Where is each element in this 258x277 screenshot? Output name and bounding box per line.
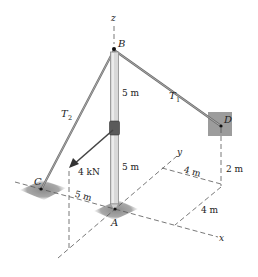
x-axis-label: x <box>219 233 224 243</box>
point-c-marker <box>39 187 42 190</box>
tension-t1-label: T 1 <box>169 90 180 104</box>
z-axis-label: z <box>110 13 116 23</box>
dim-d-x-offset: 4 m <box>201 205 219 215</box>
tension-t2-label: T 2 <box>61 108 72 122</box>
point-a-marker <box>113 207 116 210</box>
dim-c-offset: 5 m <box>74 189 94 203</box>
dim-d-height: 2 m <box>226 164 244 174</box>
collar <box>110 121 120 135</box>
point-c-label: C <box>34 176 42 187</box>
svg-text:1: 1 <box>176 96 180 104</box>
point-d-label: D <box>223 114 232 125</box>
ground-pad-c <box>20 180 66 200</box>
dim-upper-pole: 5 m <box>122 88 140 98</box>
point-a-label: A <box>110 217 118 228</box>
pole-cable-diagram: z y x B C D A T 2 T 1 4 kN 5 m 5 m 5 m 4… <box>0 0 258 277</box>
dim-d-y-offset: 4 m <box>183 165 203 179</box>
point-b-label: B <box>117 38 125 49</box>
force-arrow <box>69 130 113 168</box>
y-axis-label: y <box>176 147 183 157</box>
dim-lower-pole: 5 m <box>122 162 140 172</box>
force-label: 4 kN <box>78 167 100 177</box>
svg-text:2: 2 <box>68 114 72 122</box>
point-b-marker <box>112 47 116 51</box>
point-d-marker <box>219 124 222 127</box>
